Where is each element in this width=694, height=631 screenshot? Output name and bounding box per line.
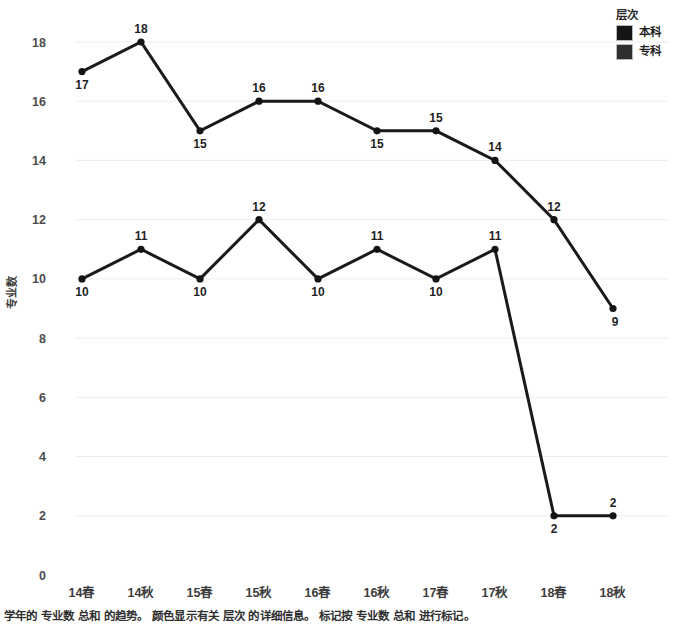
chart-canvas: 024681012141618 14春14秋15春15秋16春16秋17春17秋… — [0, 0, 694, 631]
x-tick-label: 18春 — [541, 585, 568, 600]
x-tick-label: 16秋 — [364, 585, 391, 600]
data-point[interactable] — [255, 98, 262, 105]
gridlines — [76, 42, 668, 516]
data-point-label: 2 — [551, 522, 558, 536]
y-tick-label: 16 — [32, 95, 46, 109]
line-chart: 024681012141618 14春14秋15春15秋16春16秋17春17秋… — [0, 0, 694, 631]
data-point-label: 14 — [488, 140, 502, 154]
y-tick-label: 18 — [32, 36, 46, 50]
data-point-label: 10 — [193, 285, 207, 299]
data-point[interactable] — [491, 157, 498, 164]
y-tick-label: 2 — [39, 509, 46, 523]
series-benke: 1718151616151514129 — [75, 22, 618, 329]
legend-swatch-icon — [616, 25, 633, 41]
x-tick-label: 18秋 — [600, 585, 627, 600]
x-tick-label: 14秋 — [128, 585, 155, 600]
data-point[interactable] — [550, 512, 557, 519]
x-tick-label: 16春 — [305, 585, 332, 600]
data-point-label: 15 — [370, 137, 384, 151]
y-tick-label: 14 — [32, 154, 46, 168]
data-point[interactable] — [137, 38, 144, 45]
data-point-label: 2 — [610, 496, 617, 510]
data-point[interactable] — [196, 127, 203, 134]
data-point-label: 12 — [252, 200, 266, 214]
y-axis-title: 专业数 — [5, 275, 18, 309]
data-point-label: 16 — [311, 81, 325, 95]
data-point-label: 10 — [429, 285, 443, 299]
y-tick-label: 12 — [32, 213, 46, 227]
y-tick-label: 8 — [39, 332, 46, 346]
data-point[interactable] — [196, 275, 203, 282]
x-tick-label: 14春 — [69, 585, 96, 600]
data-point[interactable] — [137, 246, 144, 253]
data-point[interactable] — [314, 275, 321, 282]
data-point[interactable] — [373, 127, 380, 134]
data-point[interactable] — [432, 127, 439, 134]
data-point[interactable] — [432, 275, 439, 282]
data-point[interactable] — [78, 275, 85, 282]
data-point[interactable] — [314, 98, 321, 105]
data-point-label: 18 — [134, 22, 148, 36]
data-point-label: 12 — [547, 200, 561, 214]
legend: 层次 本科 专科 — [610, 6, 686, 63]
data-point-label: 11 — [371, 229, 384, 243]
data-point[interactable] — [255, 216, 262, 223]
x-tick-label: 15春 — [187, 585, 214, 600]
y-tick-label: 4 — [39, 450, 46, 464]
legend-swatch-icon — [616, 44, 633, 60]
chart-caption: 学年的 专业数 总和 的趋势。 颜色显示有关 层次 的详细信息。 标记按 专业数… — [4, 607, 690, 623]
data-point-label: 16 — [252, 81, 266, 95]
y-tick-label: 0 — [39, 569, 46, 583]
series-line — [82, 42, 613, 309]
data-point-label: 15 — [193, 137, 207, 151]
series-line — [82, 220, 613, 516]
data-point[interactable] — [78, 68, 85, 75]
data-point[interactable] — [550, 216, 557, 223]
legend-item-benke[interactable]: 本科 — [616, 25, 686, 41]
legend-item-zhuanke[interactable]: 专科 — [616, 44, 686, 60]
y-axis-ticks: 024681012141618 — [32, 36, 46, 583]
data-point-label: 17 — [75, 78, 89, 92]
x-tick-label: 17春 — [423, 585, 450, 600]
x-tick-label: 15秋 — [246, 585, 273, 600]
data-point-label: 10 — [75, 285, 89, 299]
y-tick-label: 6 — [39, 391, 46, 405]
data-point[interactable] — [373, 246, 380, 253]
data-point[interactable] — [609, 305, 616, 312]
data-point-label: 11 — [489, 229, 502, 243]
series-zhuanke: 101110121011101122 — [75, 200, 616, 536]
x-tick-label: 17秋 — [482, 585, 509, 600]
data-point-label: 10 — [311, 285, 325, 299]
x-axis-ticks: 14春14秋15春15秋16春16秋17春17秋18春18秋 — [69, 585, 627, 600]
legend-item-label: 本科 — [639, 27, 661, 39]
data-point[interactable] — [609, 512, 616, 519]
legend-title: 层次 — [616, 6, 686, 22]
data-point-label: 15 — [429, 111, 443, 125]
legend-item-label: 专科 — [639, 46, 661, 58]
data-point-label: 9 — [612, 315, 619, 329]
y-tick-label: 10 — [32, 272, 46, 286]
data-point[interactable] — [491, 246, 498, 253]
data-point-label: 11 — [135, 229, 148, 243]
